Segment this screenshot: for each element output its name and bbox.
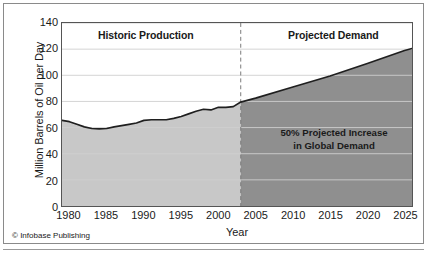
y-axis-tick-labels: 020406080100120140 xyxy=(24,22,58,207)
projection-annotation: 50% Projected Increase in Global Demand xyxy=(258,127,410,152)
x-tick-1985: 1985 xyxy=(94,209,118,221)
annotation-line-2: in Global Demand xyxy=(258,140,410,153)
y-tick-140: 140 xyxy=(24,16,58,28)
y-tick-120: 120 xyxy=(24,42,58,54)
chart-figure: Million Barrels of Oil per Day 020406080… xyxy=(3,3,424,244)
band-label-historic: Historic Production xyxy=(98,29,194,41)
y-tick-20: 20 xyxy=(24,175,58,187)
x-tick-1995: 1995 xyxy=(169,209,193,221)
y-tick-0: 0 xyxy=(24,201,58,213)
x-tick-1990: 1990 xyxy=(131,209,155,221)
copyright-credit: © Infobase Publishing xyxy=(12,231,90,240)
x-tick-2015: 2015 xyxy=(318,209,342,221)
band-label-projected: Projected Demand xyxy=(288,29,379,41)
copyright-icon: © xyxy=(12,231,18,240)
x-tick-2000: 2000 xyxy=(206,209,230,221)
y-tick-80: 80 xyxy=(24,95,58,107)
x-tick-2020: 2020 xyxy=(356,209,380,221)
x-tick-2025: 2025 xyxy=(393,209,417,221)
y-tick-60: 60 xyxy=(24,122,58,134)
x-axis-title: Year xyxy=(61,226,413,238)
annotation-line-1: 50% Projected Increase xyxy=(258,127,410,140)
credit-text: Infobase Publishing xyxy=(20,231,90,240)
x-tick-2010: 2010 xyxy=(281,209,305,221)
x-tick-1980: 1980 xyxy=(56,209,80,221)
x-axis-tick-labels: 1980198519901995200020052010201520202025 xyxy=(61,209,413,225)
y-tick-40: 40 xyxy=(24,148,58,160)
bottom-divider xyxy=(3,249,424,250)
x-tick-2005: 2005 xyxy=(243,209,267,221)
chart-svg xyxy=(62,23,412,206)
y-tick-100: 100 xyxy=(24,69,58,81)
plot-area: Historic Production Projected Demand 50%… xyxy=(61,22,413,207)
